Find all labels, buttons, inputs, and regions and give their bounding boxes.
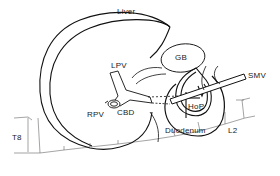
label-lpv: LPV (111, 62, 127, 70)
label-rpv: RPV (87, 111, 104, 119)
label-t8: T8 (12, 134, 22, 142)
liver-outline (40, 12, 170, 149)
portal-vein-branches (105, 71, 152, 108)
label-hop: HoP (188, 103, 204, 111)
anatomy-diagram: Liver GB LPV RPV CBD HoP SMV Duodenum T8… (0, 0, 280, 176)
label-l2: L2 (228, 127, 237, 135)
label-duodenum: Duodenum (165, 127, 206, 135)
label-smv: SMV (248, 72, 266, 80)
label-liver: Liver (117, 8, 135, 16)
label-cbd: CBD (117, 109, 135, 117)
label-gb: GB (175, 54, 187, 62)
diagram-graphics (0, 0, 280, 176)
